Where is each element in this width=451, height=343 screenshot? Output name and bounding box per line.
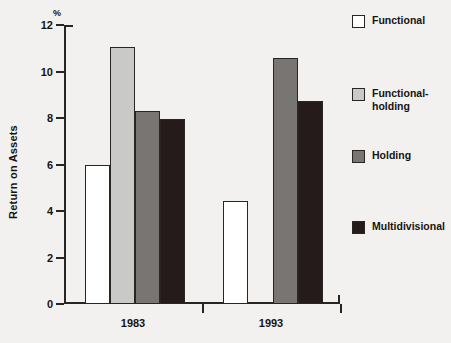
y-tick-8 — [56, 117, 64, 119]
x-axis-right-cap — [338, 295, 340, 304]
legend-label: Multidivisional — [372, 220, 445, 233]
y-tick-4 — [56, 210, 64, 212]
y-tick-label-8: 8 — [47, 112, 53, 124]
bar-1983-functional — [85, 165, 110, 305]
x-category-label-1983: 1983 — [121, 317, 145, 329]
y-tick-6 — [56, 164, 64, 166]
bar-1993-holding — [273, 58, 298, 304]
legend-swatch-icon — [352, 150, 365, 163]
x-tick-1993 — [340, 304, 342, 313]
bar-1983-multidivisional — [160, 119, 185, 304]
y-tick-label-12: 12 — [41, 19, 53, 31]
bar-1993-functional — [223, 201, 248, 304]
y-tick-12 — [56, 24, 64, 26]
y-tick-label-10: 10 — [41, 66, 53, 78]
legend-swatch-icon — [352, 221, 365, 234]
y-tick-label-6: 6 — [47, 159, 53, 171]
y-tick-label-0: 0 — [47, 298, 53, 310]
legend-item-multidivisional[interactable]: Multidivisional — [352, 220, 445, 234]
y-axis-top-cap — [64, 25, 73, 27]
bar-1983-holding — [135, 111, 160, 304]
y-tick-label-2: 2 — [47, 252, 53, 264]
y-tick-label-4: 4 — [47, 205, 53, 217]
y-axis-line — [64, 25, 66, 304]
legend-label: Functional- holding — [372, 87, 429, 112]
legend-swatch-icon — [352, 88, 365, 101]
y-axis-title-text: Return on Assets — [7, 125, 19, 219]
legend-label: Holding — [372, 149, 411, 162]
legend-item-functional[interactable]: Functional — [352, 14, 425, 28]
y-tick-10 — [56, 71, 64, 73]
x-category-label-1993: 1993 — [259, 317, 283, 329]
bar-chart-figure: Return on Assets % 024681012 19831993 Fu… — [0, 0, 451, 343]
legend-item-functionalholding[interactable]: Functional- holding — [352, 87, 429, 112]
legend-item-holding[interactable]: Holding — [352, 149, 411, 163]
bar-1983-functional-holding — [110, 47, 135, 304]
y-axis-title: Return on Assets — [2, 0, 24, 343]
legend-label: Functional — [372, 14, 425, 27]
y-tick-2 — [56, 257, 64, 259]
percent-unit-label: % — [53, 8, 61, 18]
legend-swatch-icon — [352, 15, 365, 28]
bar-1993-multidivisional — [298, 101, 323, 304]
y-tick-0 — [56, 303, 64, 305]
x-tick-1983 — [202, 304, 204, 313]
plot-area: % 024681012 19831993 — [64, 25, 340, 304]
